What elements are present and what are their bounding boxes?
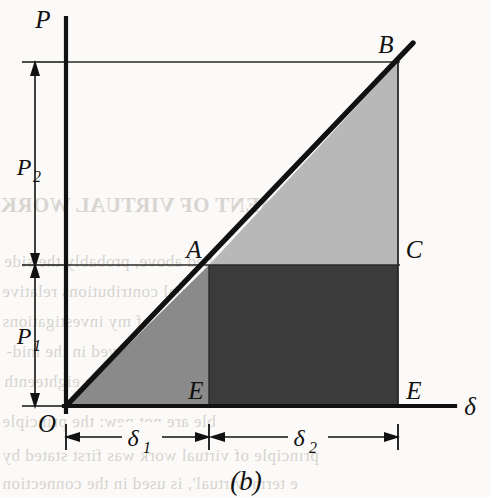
point-label-E: E [187, 377, 203, 404]
figure-caption: (b) [230, 466, 261, 496]
dimension-label-delta1-subscript: 1 [143, 439, 151, 456]
dimension-delta2-arrowhead-left [209, 432, 225, 442]
x-axis-label-delta: δ [464, 393, 476, 420]
dimension-label-delta2-main: δ [293, 425, 305, 451]
dimension-label-P1-subscript: 1 [33, 337, 41, 354]
point-label-A: A [184, 236, 202, 263]
dimension-label-P2-subscript: 2 [33, 168, 41, 185]
dimension-label-delta1: δ 1 [122, 422, 162, 456]
dimension-label-P2-main: P [16, 154, 32, 180]
dimension-label-P1: P 1 [16, 323, 41, 354]
dimension-label-P1-main: P [16, 323, 32, 349]
load-deflection-diagram: P δ O A B C E E P 2 P 1 δ 1 δ 2 (b) [0, 0, 491, 497]
dimension-label-delta2-subscript: 2 [309, 439, 317, 456]
dimension-label-delta2: δ 2 [288, 422, 328, 456]
point-label-O: O [38, 410, 56, 437]
point-label-B: B [378, 31, 393, 58]
figure-container: MENT OF VIRTUAL WORK ched above, probabl… [0, 0, 491, 497]
region-dark-rectangle-ACDE [209, 265, 398, 406]
dimension-label-delta1-main: δ [127, 425, 139, 451]
y-axis-label-P: P [34, 6, 50, 33]
dimension-label-P2: P 2 [16, 154, 41, 185]
region-upper-triangle-ABC [209, 62, 398, 265]
point-label-D: E [405, 377, 421, 404]
point-label-C: C [406, 236, 423, 263]
